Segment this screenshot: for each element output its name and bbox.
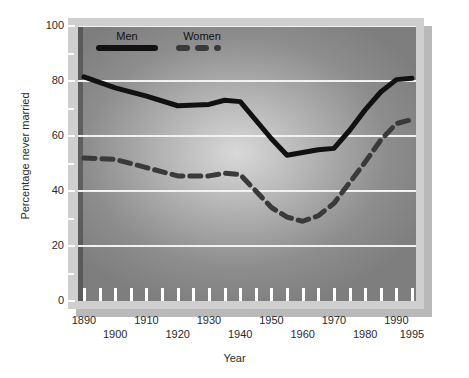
x-tick-label: 1960 (283, 328, 323, 340)
legend-label-men: Men (96, 30, 158, 42)
legend-item-women: Women (176, 30, 228, 51)
x-axis-labels: 1890190019101920193019401950196019701980… (0, 0, 469, 378)
legend-swatch-women-dashed-line (176, 45, 228, 51)
legend-label-women: Women (176, 30, 228, 42)
x-tick-label: 1930 (189, 314, 229, 326)
x-tick-label: 1900 (95, 328, 135, 340)
x-tick-label: 1980 (345, 328, 385, 340)
x-tick-label: 1890 (64, 314, 104, 326)
legend-swatch-men-solid-line (96, 45, 158, 51)
x-tick-label: 1970 (314, 314, 354, 326)
x-tick-label: 1990 (376, 314, 416, 326)
x-tick-label: 1940 (220, 328, 260, 340)
chart-figure: 020406080100 Percentage never married 18… (0, 0, 469, 378)
x-axis-title: Year (0, 352, 469, 364)
legend-item-men: Men (96, 30, 158, 51)
x-tick-label: 1950 (251, 314, 291, 326)
x-tick-label: 1910 (126, 314, 166, 326)
x-tick-label: 1920 (158, 328, 198, 340)
x-tick-label: 1995 (392, 328, 432, 340)
